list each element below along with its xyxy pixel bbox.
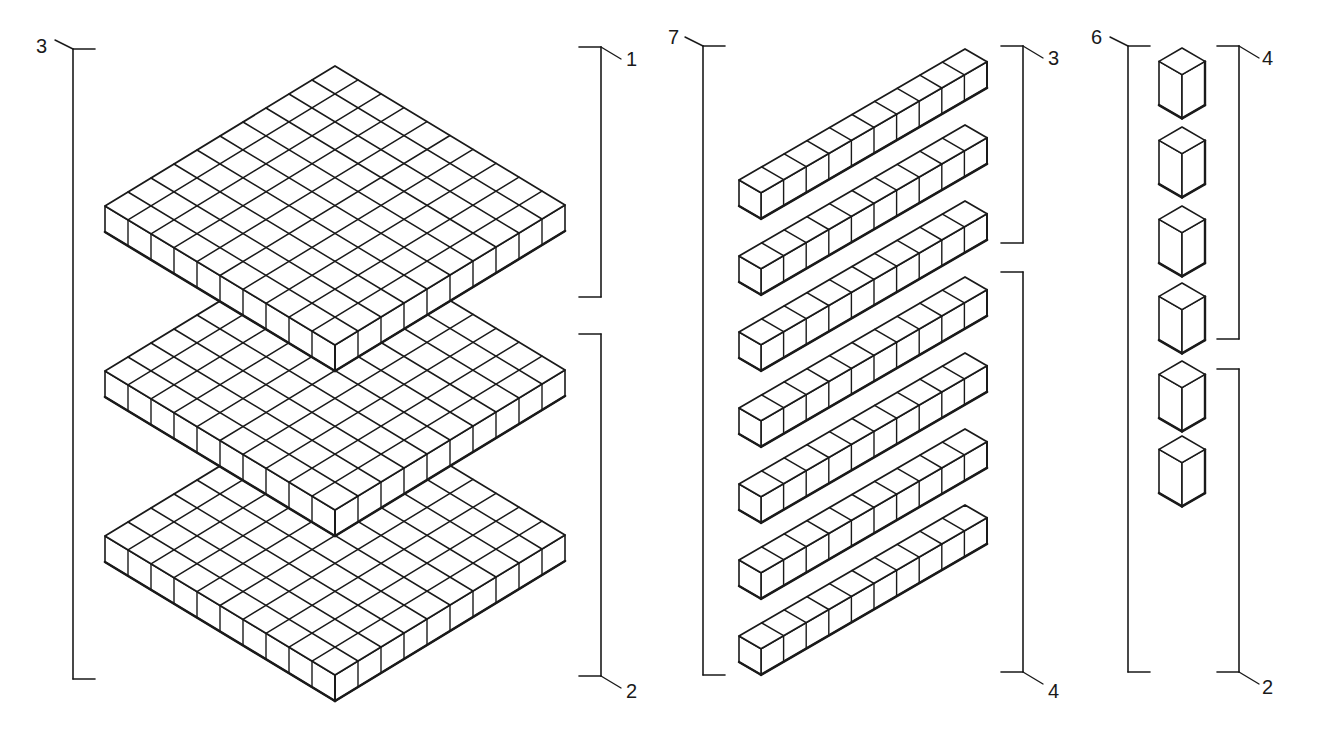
ones-cubes-group — [1159, 48, 1205, 506]
label-tens-bottom: 4 — [1048, 681, 1059, 701]
hundreds-flats-group — [105, 66, 565, 701]
label-ones-bottom: 2 — [1262, 677, 1273, 697]
label-hundreds-top: 1 — [626, 49, 637, 69]
label-ones-total: 6 — [1091, 27, 1102, 47]
label-hundreds-total: 3 — [36, 36, 47, 56]
label-tens-top: 3 — [1048, 48, 1059, 68]
label-ones-top: 4 — [1262, 48, 1273, 68]
label-tens-total: 7 — [668, 27, 679, 47]
label-hundreds-bottom: 2 — [626, 681, 637, 701]
base-ten-blocks-diagram — [0, 0, 1319, 732]
tens-rods-group — [739, 49, 987, 675]
